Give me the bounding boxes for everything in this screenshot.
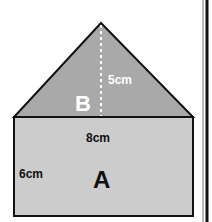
rectangle-label: A — [93, 166, 110, 194]
triangle-height-label: 5cm — [108, 73, 132, 87]
rectangle-height-label: 6cm — [19, 167, 43, 181]
rectangle-width-label: 8cm — [86, 131, 110, 145]
triangle-b — [14, 23, 193, 117]
triangle-label: B — [75, 91, 91, 117]
